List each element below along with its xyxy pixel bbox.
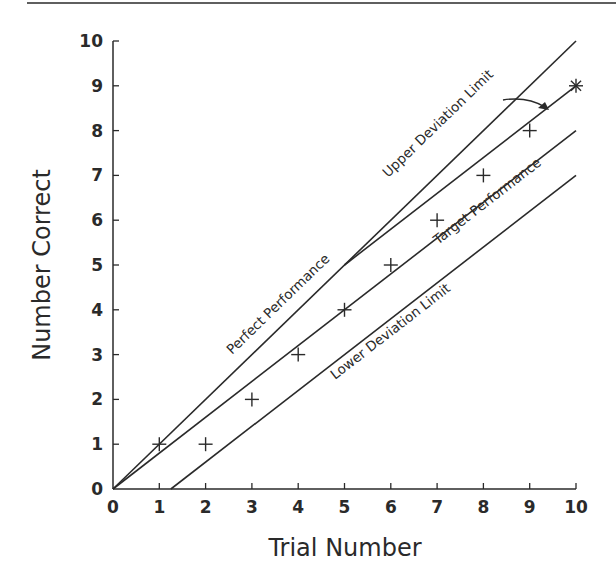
x-tick-label: 5 — [339, 497, 351, 517]
y-tick-label: 9 — [91, 76, 103, 96]
lower-deviation-limit-line — [171, 175, 576, 489]
x-tick-label: 4 — [292, 497, 304, 517]
x-tick-label: 10 — [564, 497, 588, 517]
x-tick-label: 1 — [153, 497, 165, 517]
x-tick-label: 3 — [246, 497, 258, 517]
upper-deviation-limit-line — [345, 86, 577, 265]
target-performance-label: Target Performance — [429, 154, 544, 248]
upper-deviation-limit-label: Upper Deviation Limit — [379, 66, 496, 180]
plus-marker — [245, 392, 259, 406]
y-tick-label: 7 — [91, 165, 103, 185]
x-tick-label: 9 — [524, 497, 536, 517]
y-tick-label: 3 — [91, 345, 103, 365]
x-tick-label: 0 — [107, 497, 119, 517]
y-tick-label: 0 — [91, 479, 103, 499]
x-tick-label: 2 — [200, 497, 212, 517]
y-axis-title: Number Correct — [28, 169, 56, 361]
x-tick-label: 6 — [385, 497, 397, 517]
perfect-performance-label: Perfect Performance — [223, 250, 333, 357]
x-tick-label: 8 — [477, 497, 489, 517]
lower-deviation-limit-label: Lower Deviation Limit — [327, 280, 453, 383]
y-tick-label: 8 — [91, 121, 103, 141]
y-tick-label: 2 — [91, 389, 103, 409]
plus-marker — [338, 303, 352, 317]
plus-marker — [199, 437, 213, 451]
y-tick-label: 10 — [79, 31, 103, 51]
x-tick-label: 7 — [431, 497, 443, 517]
x-axis-title: Trial Number — [267, 534, 421, 562]
y-tick-label: 5 — [91, 255, 103, 275]
arrow-head-icon — [538, 102, 549, 110]
chart-lines — [113, 41, 576, 489]
plus-marker — [476, 168, 490, 182]
y-tick-label: 4 — [91, 300, 103, 320]
y-tick-label: 6 — [91, 210, 103, 230]
y-tick-label: 1 — [91, 434, 103, 454]
asterisk-marker — [569, 79, 583, 93]
data-points — [152, 79, 583, 451]
chart-canvas: 012345678910012345678910 Perfect Perform… — [0, 0, 616, 583]
